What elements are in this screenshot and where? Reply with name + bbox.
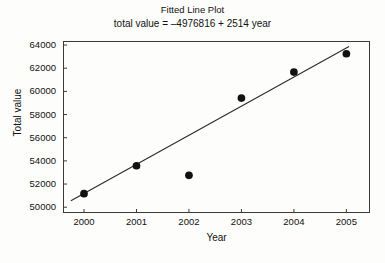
y-tick-label: 50000	[12, 202, 56, 212]
y-tick-label: 54000	[12, 156, 56, 166]
x-axis-title: Year	[63, 232, 370, 243]
y-tick-label: 64000	[12, 40, 56, 50]
y-tick-label: 52000	[12, 179, 56, 189]
x-tick-label: 2001	[116, 216, 156, 227]
x-tick-label: 2004	[274, 216, 314, 227]
y-axis-title: Total value	[12, 73, 23, 153]
x-tick-label: 2000	[64, 216, 104, 227]
chart-page: Fitted Line Plot total value = –4976816 …	[0, 0, 385, 263]
x-tick-label: 2002	[169, 216, 209, 227]
x-tick-label: 2003	[221, 216, 261, 227]
plot-area-frame	[63, 41, 370, 213]
chart-title: Fitted Line Plot	[0, 4, 385, 16]
chart-subtitle-equation: total value = –4976816 + 2514 year	[0, 17, 385, 30]
x-tick-label: 2005	[326, 216, 366, 227]
chart-title-block: Fitted Line Plot total value = –4976816 …	[0, 4, 385, 30]
x-axis-tick-labels: 200020012002200320042005	[0, 216, 385, 230]
